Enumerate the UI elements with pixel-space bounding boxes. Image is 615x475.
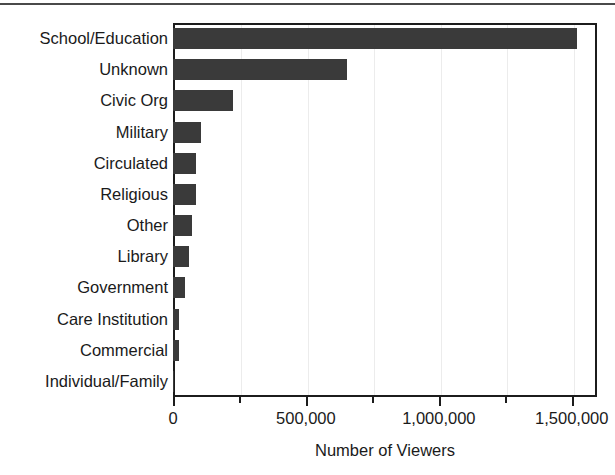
category-label: Unknown (0, 60, 168, 79)
bar (173, 340, 179, 361)
bar (173, 309, 179, 330)
bars-group (173, 23, 597, 397)
x-tick-label: 0 (168, 408, 177, 428)
top-divider-rule (0, 3, 615, 5)
bar (173, 122, 201, 143)
x-tick-minor (372, 397, 374, 403)
category-label: Library (0, 247, 168, 266)
x-tick-label: 1,500,000 (535, 408, 608, 428)
bar-chart-figure: School/EducationUnknownCivic OrgMilitary… (0, 0, 615, 475)
category-label: Civic Org (0, 91, 168, 110)
x-axis-tick-labels-group: 0500,0001,000,0001,500,000 (0, 408, 615, 432)
category-label: Care Institution (0, 310, 168, 329)
x-tick-label: 1,000,000 (402, 408, 475, 428)
bar (173, 246, 189, 267)
category-label: Commercial (0, 341, 168, 360)
category-label: Individual/Family (0, 372, 168, 391)
bar (173, 90, 233, 111)
x-tick-minor (239, 397, 241, 403)
x-tick-major (572, 397, 574, 406)
x-tick-major (306, 397, 308, 406)
x-tick-label: 500,000 (276, 408, 336, 428)
x-tick-major (173, 397, 175, 406)
bar (173, 215, 192, 236)
bar (173, 184, 196, 205)
bar (173, 277, 185, 298)
category-label: Religious (0, 185, 168, 204)
bar (173, 153, 196, 174)
bar (173, 59, 347, 80)
x-tick-minor (505, 397, 507, 403)
category-label: Other (0, 216, 168, 235)
x-tick-major (439, 397, 441, 406)
bar (173, 28, 577, 49)
category-label: Military (0, 123, 168, 142)
category-labels-group: School/EducationUnknownCivic OrgMilitary… (0, 23, 168, 397)
category-label: Government (0, 278, 168, 297)
x-axis-title: Number of Viewers (173, 440, 597, 460)
bar (173, 371, 174, 392)
category-label: Circulated (0, 154, 168, 173)
category-label: School/Education (0, 29, 168, 48)
